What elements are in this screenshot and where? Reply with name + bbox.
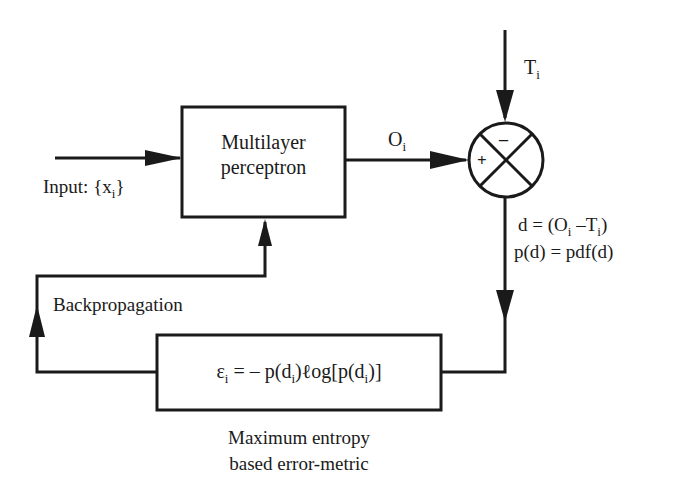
pdf-equation: p(d) = pdf(d) [514,241,613,263]
backpropagation-label: Backpropagation [53,294,183,316]
output-label: Oi [388,128,406,150]
mlp-label: Multilayer perceptron [182,130,345,180]
error-metric-caption: Maximum entropy based error-metric [157,425,441,477]
minus-sign: – [499,128,508,150]
input-label: Input: {xi} [43,176,125,198]
difference-equation: d = (Oi –Ti) [518,214,607,236]
plus-sign: + [477,150,487,172]
error-metric-equation: εi = – p(di)ℓog[p(di)] [157,360,441,382]
diagram-canvas: Multilayer perceptron Input: {xi} Oi Ti … [0,0,684,499]
target-label: Ti [524,56,540,78]
input-arrowhead [145,150,182,166]
